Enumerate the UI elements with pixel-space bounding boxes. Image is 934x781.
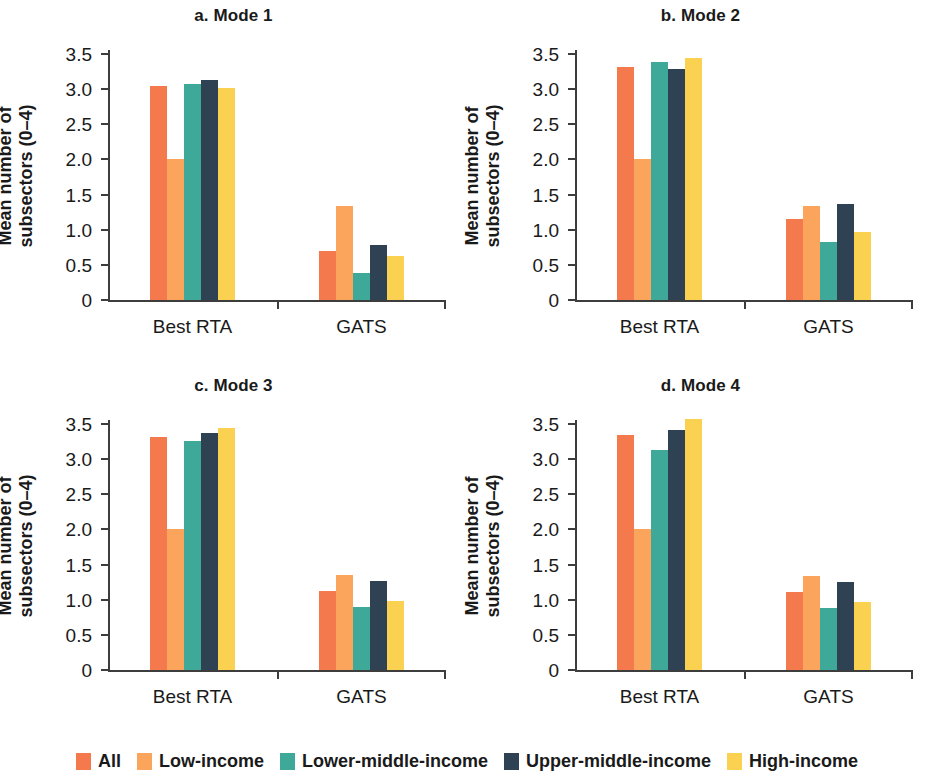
y-axis-title-line2: subsectors (0–4) [16, 474, 37, 617]
legend-label: High-income [749, 751, 858, 772]
x-group-label: Best RTA [153, 686, 233, 708]
y-tick [101, 493, 108, 495]
panel-title: c. Mode 3 [0, 376, 467, 396]
legend-item: Lower-middle-income [280, 751, 488, 772]
x-group-label: Best RTA [620, 686, 700, 708]
y-tick-label: 3.5 [66, 45, 92, 64]
y-tick [568, 493, 575, 495]
y-axis-title-line1: Mean number of [462, 104, 483, 247]
panel-3: c. Mode 3Mean number ofsubsectors (0–4)0… [0, 370, 467, 740]
panel-1: a. Mode 1Mean number ofsubsectors (0–4)0… [0, 0, 467, 370]
x-axis-tick-end [911, 670, 913, 679]
panel-title: a. Mode 1 [0, 6, 467, 26]
panel-grid: a. Mode 1Mean number ofsubsectors (0–4)0… [0, 0, 934, 740]
bar [617, 435, 634, 670]
bar [370, 581, 387, 670]
y-tick-label: 2.5 [533, 115, 559, 134]
plot-area: 00.51.01.52.02.53.03.5Best RTAGATS [575, 50, 913, 302]
legend-swatch-icon [280, 753, 295, 770]
legend-swatch-icon [504, 753, 519, 770]
y-tick-label: 2.0 [66, 520, 92, 539]
x-axis-tick-end [444, 300, 446, 309]
y-tick [568, 599, 575, 601]
y-tick [568, 299, 575, 301]
legend-item: Upper-middle-income [504, 751, 711, 772]
y-tick-label: 0.5 [66, 255, 92, 274]
y-tick-label: 0.5 [533, 625, 559, 644]
y-tick-label: 1.5 [66, 555, 92, 574]
x-group-label: GATS [336, 686, 386, 708]
bar [201, 80, 218, 300]
legend: AllLow-incomeLower-middle-incomeUpper-mi… [0, 744, 934, 778]
y-tick-label: 3.0 [66, 80, 92, 99]
bar [167, 159, 184, 300]
y-tick [101, 599, 108, 601]
y-tick-label: 1.5 [533, 555, 559, 574]
y-tick-label: 3.5 [533, 45, 559, 64]
legend-label: Upper-middle-income [526, 751, 711, 772]
panel-title: d. Mode 4 [467, 376, 934, 396]
y-axis-line [108, 50, 110, 302]
panel-4: d. Mode 4Mean number ofsubsectors (0–4)0… [467, 370, 934, 740]
y-axis-title-line2: subsectors (0–4) [16, 104, 37, 247]
bar [820, 608, 837, 670]
bar [353, 607, 370, 670]
bar [668, 69, 685, 300]
x-group-label: Best RTA [153, 316, 233, 338]
bar [803, 576, 820, 670]
y-tick-label: 1.0 [66, 590, 92, 609]
y-tick-label: 1.0 [533, 220, 559, 239]
y-tick-label: 1.0 [533, 590, 559, 609]
y-tick [568, 88, 575, 90]
plot-area: 00.51.01.52.02.53.03.5Best RTAGATS [575, 420, 913, 672]
bar [837, 204, 854, 300]
y-axis-line [575, 50, 577, 302]
y-tick [101, 528, 108, 530]
y-tick-label: 0.5 [533, 255, 559, 274]
y-axis-title: Mean number ofsubsectors (0–4) [0, 420, 36, 672]
y-tick-label: 1.5 [66, 185, 92, 204]
y-tick [101, 194, 108, 196]
y-tick [568, 264, 575, 266]
y-tick [568, 423, 575, 425]
bar [319, 591, 336, 670]
bar [336, 206, 353, 300]
y-tick-label: 0 [548, 291, 559, 310]
x-axis-tick [744, 300, 746, 309]
y-tick [568, 194, 575, 196]
y-tick [101, 669, 108, 671]
legend-swatch-icon [137, 753, 152, 770]
y-tick-label: 2.0 [533, 150, 559, 169]
bar [634, 529, 651, 670]
legend-label: Low-income [159, 751, 264, 772]
y-tick [568, 229, 575, 231]
bar [617, 67, 634, 300]
bar [685, 58, 702, 300]
bar [370, 245, 387, 300]
y-axis-title: Mean number ofsubsectors (0–4) [463, 420, 503, 672]
bar [685, 419, 702, 670]
legend-item: All [76, 751, 121, 772]
y-tick-label: 3.5 [533, 415, 559, 434]
bar [319, 251, 336, 300]
panel-2: b. Mode 2Mean number ofsubsectors (0–4)0… [467, 0, 934, 370]
y-tick [568, 53, 575, 55]
y-axis-title: Mean number ofsubsectors (0–4) [0, 50, 36, 302]
x-axis-tick [277, 300, 279, 309]
y-tick [568, 158, 575, 160]
y-tick [101, 634, 108, 636]
bar [786, 219, 803, 300]
bar [387, 601, 404, 670]
y-tick-label: 2.5 [66, 115, 92, 134]
y-tick-label: 0.5 [66, 625, 92, 644]
y-tick [101, 264, 108, 266]
y-tick [568, 564, 575, 566]
y-tick-label: 3.0 [533, 80, 559, 99]
x-group-label: GATS [803, 316, 853, 338]
y-axis-title-line1: Mean number of [0, 104, 16, 247]
bar [167, 529, 184, 670]
x-group-label: Best RTA [620, 316, 700, 338]
figure-multi-panel-bar-charts: a. Mode 1Mean number ofsubsectors (0–4)0… [0, 0, 934, 781]
y-tick-label: 2.5 [533, 485, 559, 504]
y-tick [568, 669, 575, 671]
